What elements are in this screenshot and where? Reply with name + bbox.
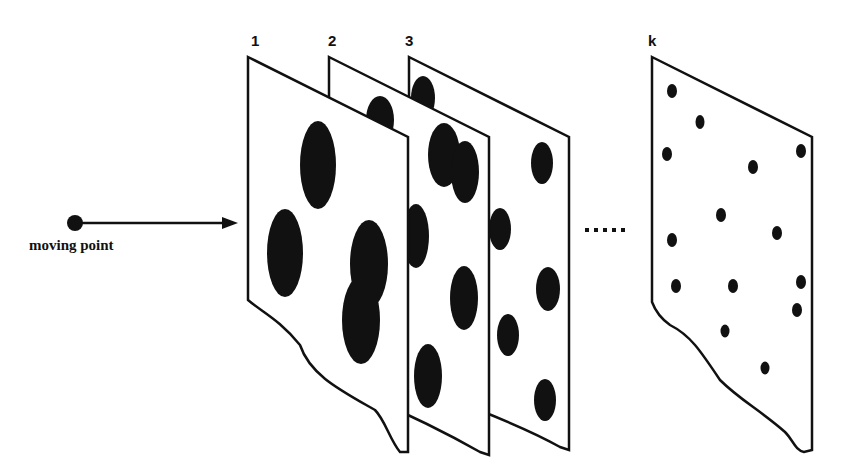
plane-1-label: 1 [251, 32, 259, 49]
plane-k-label: k [648, 32, 657, 49]
ellipsis-dots [585, 228, 625, 232]
moving-point-arrow [67, 215, 238, 231]
diagram-canvas: moving point 1 2 3 k [0, 0, 849, 473]
arrow-head-icon [222, 217, 238, 229]
moving-point-label: moving point [29, 237, 114, 253]
plane-k [652, 57, 812, 452]
plane-3-label: 3 [405, 32, 413, 49]
plane-2-label: 2 [328, 32, 336, 49]
